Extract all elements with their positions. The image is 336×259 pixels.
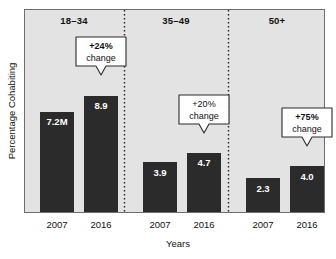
xtick-50-plus-2016: 2016	[296, 219, 317, 230]
bar-label-18-34-2016: 8.9	[94, 100, 107, 111]
callout-word-35-49: change	[189, 111, 219, 121]
callout-percent-18-34: +24%	[89, 41, 112, 51]
bar-label-35-49-2007: 3.9	[153, 167, 166, 178]
x-axis-title: Years	[166, 238, 190, 249]
xtick-18-34-2016: 2016	[90, 219, 111, 230]
bar-18-34-2007[interactable]	[40, 112, 74, 212]
group-header-50-plus: 50+	[269, 15, 286, 26]
cohabiting-bar-chart: 18–34 35–49 50+ 7.2M 8.9 3.9 4.7 2.3 4.0…	[0, 0, 336, 259]
bar-label-50-plus-2016: 4.0	[300, 171, 313, 182]
xtick-18-34-2007: 2007	[46, 219, 67, 230]
xtick-50-plus-2007: 2007	[252, 219, 273, 230]
callout-percent-50-plus: +75%	[295, 112, 318, 122]
group-header-18-34: 18–34	[60, 15, 88, 26]
callout-word-18-34: change	[86, 53, 116, 63]
bar-label-18-34-2007: 7.2M	[46, 116, 67, 127]
callout-percent-35-49: +20%	[192, 99, 215, 109]
callout-word-50-plus: change	[292, 124, 322, 134]
y-axis-title: Percentage Cohabiting	[6, 63, 17, 160]
bar-18-34-2016[interactable]	[84, 96, 118, 212]
xtick-35-49-2007: 2007	[149, 219, 170, 230]
bar-label-35-49-2016: 4.7	[197, 157, 210, 168]
bar-label-50-plus-2007: 2.3	[256, 183, 269, 194]
group-header-35-49: 35–49	[162, 15, 189, 26]
xtick-35-49-2016: 2016	[193, 219, 214, 230]
